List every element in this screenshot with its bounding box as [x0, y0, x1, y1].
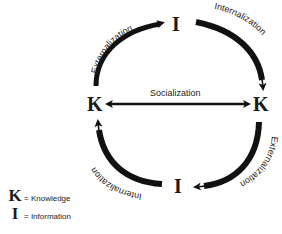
- edge-internalization-top: Internalization: [196, 1, 268, 88]
- legend-text: = Knowledge: [24, 194, 70, 203]
- arrowhead-icon: [262, 78, 263, 88]
- node-knowledge-right: K: [253, 93, 269, 115]
- edge-externalization-top: Externalization: [89, 23, 162, 86]
- legend-item-knowledge: K = Knowledge: [8, 186, 70, 206]
- edge-internalization-bottom: Internalization: [88, 122, 162, 202]
- edge-label: Socialization: [150, 88, 201, 98]
- legend-item-information: I = Information: [8, 204, 71, 224]
- edge-socialization: Socialization: [110, 88, 248, 104]
- node-information-bottom: I: [174, 175, 182, 197]
- node-knowledge-left: K: [87, 93, 103, 115]
- node-information-top: I: [172, 13, 180, 35]
- arrowhead-icon: [196, 186, 206, 187]
- edge-externalization-bottom: Externalization: [196, 122, 280, 189]
- legend-symbol: I: [8, 204, 22, 224]
- edge-label: Internalization: [88, 166, 142, 202]
- arrowhead-icon: [98, 122, 99, 132]
- legend-symbol: K: [8, 186, 22, 206]
- legend-text: = Information: [24, 212, 71, 221]
